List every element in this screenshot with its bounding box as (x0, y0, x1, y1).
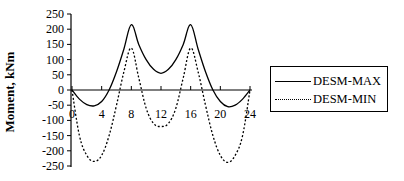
x-tick-label: 20 (214, 107, 226, 121)
x-tick-label: 8 (128, 107, 134, 121)
y-axis-label: Moment, kNm (2, 51, 17, 132)
legend-item-desm-max: DESM-MAX (275, 73, 381, 89)
y-tick-label: 0 (58, 83, 64, 97)
y-tick-label: 50 (52, 68, 64, 82)
y-tick-label: 150 (46, 37, 64, 51)
y-axis-ticks: 250200150100500-50-100-150-200-250 (42, 7, 71, 173)
y-tick-label: -200 (42, 144, 64, 158)
x-tick-label: 4 (99, 107, 105, 121)
x-tick-label: 24 (244, 107, 256, 121)
legend-label: DESM-MAX (313, 74, 381, 89)
solid-line-swatch-icon (275, 81, 311, 82)
legend: DESM-MAX DESM-MIN (270, 66, 388, 112)
dotted-line-swatch-icon (275, 99, 311, 100)
y-tick-label: -50 (48, 98, 64, 112)
y-tick-label: -100 (42, 113, 64, 127)
y-tick-label: -150 (42, 129, 64, 143)
y-tick-label: -250 (42, 159, 64, 173)
x-tick-label: 12 (155, 107, 167, 121)
y-tick-label: 250 (46, 7, 64, 21)
x-tick-label: 16 (185, 107, 197, 121)
series-desm-max-line (72, 25, 250, 107)
legend-label: DESM-MIN (313, 92, 376, 107)
x-tick-label: 0 (69, 107, 75, 121)
y-tick-label: 200 (46, 22, 64, 36)
legend-item-desm-min: DESM-MIN (275, 91, 376, 107)
x-axis-ticks: 04812162024 (69, 86, 256, 121)
y-tick-label: 100 (46, 53, 64, 67)
